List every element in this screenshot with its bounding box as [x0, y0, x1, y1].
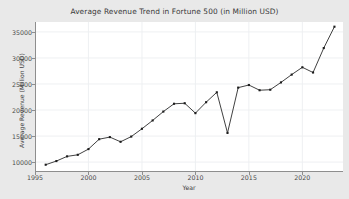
data-point-marker — [120, 141, 122, 143]
y-axis-tick-label: 25000 — [2, 80, 32, 87]
y-axis-tick-label: 15000 — [2, 133, 32, 140]
x-axis-tick-mark — [195, 172, 196, 175]
data-point-marker — [173, 103, 175, 105]
y-axis-tick-label: 10000 — [2, 159, 32, 166]
data-point-marker — [237, 87, 239, 89]
data-point-marker — [77, 154, 79, 156]
data-point-marker — [55, 160, 57, 162]
data-point-marker — [280, 81, 282, 83]
data-point-marker — [259, 89, 261, 91]
chart-title: Average Revenue Trend in Fortune 500 (in… — [0, 7, 349, 16]
y-axis-tick-mark — [32, 136, 35, 137]
y-axis-tick-mark — [32, 32, 35, 33]
x-axis-tick-label: 2020 — [294, 174, 310, 181]
revenue-series-line — [46, 27, 335, 165]
x-axis-tick-label: 2000 — [80, 174, 96, 181]
x-axis-tick-label: 2015 — [241, 174, 257, 181]
x-axis-tick-mark — [302, 172, 303, 175]
data-point-marker — [141, 128, 143, 130]
data-point-marker — [216, 91, 218, 93]
data-point-marker — [194, 112, 196, 114]
data-point-marker — [87, 148, 89, 150]
y-axis-tick-mark — [32, 162, 35, 163]
data-point-marker — [45, 164, 47, 166]
data-point-marker — [323, 47, 325, 49]
x-axis-tick-mark — [142, 172, 143, 175]
x-axis-tick-mark — [35, 172, 36, 175]
plot-area — [35, 22, 343, 172]
x-axis-tick-mark — [88, 172, 89, 175]
data-point-marker — [269, 89, 271, 91]
y-axis-tick-label: 20000 — [2, 107, 32, 114]
y-axis-tick-label: 30000 — [2, 54, 32, 61]
data-point-marker — [98, 138, 100, 140]
x-axis-tick-label: 2010 — [187, 174, 203, 181]
y-axis-tick-mark — [32, 110, 35, 111]
gridlines — [35, 22, 343, 172]
x-axis-spine — [35, 171, 343, 172]
data-point-marker — [312, 71, 314, 73]
data-point-marker — [291, 74, 293, 76]
x-axis-label: Year — [35, 184, 343, 191]
data-point-marker — [333, 26, 335, 28]
y-axis-tick-mark — [32, 58, 35, 59]
y-axis-tick-labels: 100001500020000250003000035000 — [0, 0, 32, 199]
data-point-marker — [226, 132, 228, 134]
x-axis-tick-label: 1995 — [27, 174, 43, 181]
y-axis-tick-mark — [32, 84, 35, 85]
line-chart-svg — [35, 22, 343, 172]
x-axis-tick-mark — [249, 172, 250, 175]
data-point-marker — [109, 136, 111, 138]
chart-figure: Average Revenue Trend in Fortune 500 (in… — [0, 0, 349, 199]
y-axis-spine — [35, 22, 36, 172]
data-point-marker — [130, 136, 132, 138]
x-axis-tick-label: 2005 — [134, 174, 150, 181]
data-point-marker — [301, 66, 303, 68]
data-point-marker — [152, 119, 154, 121]
y-axis-tick-label: 35000 — [2, 28, 32, 35]
data-point-marker — [205, 101, 207, 103]
data-point-marker — [66, 155, 68, 157]
data-point-marker — [184, 102, 186, 104]
data-point-marker — [248, 84, 250, 86]
data-point-marker — [162, 111, 164, 113]
